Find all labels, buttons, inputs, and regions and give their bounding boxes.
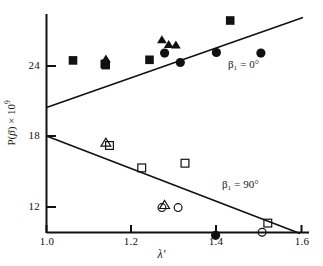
annotation-beta-0: β₁ = 0°	[228, 58, 259, 70]
figure-container: 24 18 12 1.0 1.2 1.4 1.6 P(β) × 109 λ′ β…	[0, 0, 323, 266]
x-tick-label-1p4: 1.4	[197, 235, 235, 247]
fit-line-beta-0	[47, 18, 304, 108]
series-filled-squares	[69, 16, 235, 69]
y-tick-label-12: 12	[8, 200, 40, 212]
data-point	[171, 41, 181, 49]
data-point	[101, 61, 110, 70]
data-point	[226, 16, 235, 25]
x-tick-label-1p2: 1.2	[112, 235, 150, 247]
data-point	[69, 56, 78, 65]
y-axis-title-prefix: P(	[5, 136, 17, 146]
y-axis-title: P(β) × 109	[3, 80, 17, 166]
y-axis-title-beta: β	[5, 130, 17, 135]
data-point	[160, 49, 169, 58]
data-point	[157, 35, 167, 43]
data-point	[181, 159, 189, 167]
data-point	[176, 58, 185, 67]
x-tick-label-1p0: 1.0	[28, 235, 66, 247]
data-point	[174, 204, 182, 212]
fit-lines	[47, 18, 304, 234]
data-point	[138, 164, 146, 172]
series-open-circles	[158, 204, 266, 237]
y-tick-label-24: 24	[8, 59, 40, 71]
data-point	[256, 49, 265, 58]
y-axis-title-exponent: 9	[3, 100, 12, 104]
series-filled-triangles	[101, 35, 181, 62]
plot-canvas	[0, 0, 323, 266]
annotation-beta-90: β₁ = 90°	[222, 178, 259, 190]
data-point	[106, 142, 114, 150]
y-axis-title-mid: ) × 10	[5, 104, 17, 130]
data-point	[212, 48, 221, 57]
fit-line-beta-90	[47, 136, 301, 234]
data-point	[145, 56, 154, 65]
x-tick-label-1p6: 1.6	[283, 235, 321, 247]
x-axis-title: λ′	[0, 247, 323, 262]
series-open-triangles	[101, 138, 170, 208]
